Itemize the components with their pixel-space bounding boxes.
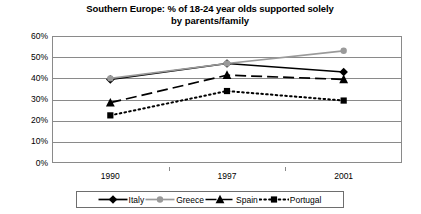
legend-item-label: Spain [236,195,259,205]
y-axis-tick-label: 20% [4,116,48,125]
square-icon [259,194,289,205]
y-axis-tick-label: 10% [4,137,48,146]
chart-title-line-1: Southern Europe: % of 18-24 year olds su… [55,3,365,15]
legend-item-spain[interactable]: Spain [205,194,259,205]
x-axis: 199019972001 [52,167,402,181]
legend-item-label: Italy [129,195,146,205]
chart-title-line-2: by parents/family [55,15,365,27]
legend-item-greece[interactable]: Greece [145,194,205,205]
plot-area [52,36,402,163]
legend-item-label: Portugal [290,195,323,205]
legend-item-portugal[interactable]: Portugal [259,194,323,205]
legend-item-italy[interactable]: Italy [98,194,146,205]
circle-icon [145,194,175,205]
data-point-marker [224,88,230,94]
circle-icon [145,194,175,205]
y-axis-tick-label: 60% [4,32,48,41]
data-point-marker [224,60,230,66]
x-axis-tick-label: 1990 [80,171,140,181]
chart-container: Southern Europe: % of 18-24 year olds su… [0,0,421,214]
data-point-marker [107,112,113,118]
x-axis-tick-mark [169,167,170,171]
y-axis-tick-label: 40% [4,74,48,83]
data-point-marker [341,97,347,103]
square-icon [259,194,289,205]
triangle-icon [205,194,235,205]
y-axis-tick-label: 50% [4,53,48,62]
chart-title: Southern Europe: % of 18-24 year olds su… [55,3,365,27]
x-axis-tick-mark [285,167,286,171]
series-portugal [107,88,347,119]
chart-legend: ItalyGreeceSpainPortugal [76,191,344,208]
legend-item-label: Greece [176,195,205,205]
data-point-marker [340,48,346,54]
x-axis-tick-label: 1997 [197,171,257,181]
diamond-icon [98,194,128,205]
legend-items: ItalyGreeceSpainPortugal [77,192,343,207]
x-axis-tick-label: 2001 [314,171,374,181]
y-axis-tick-label: 30% [4,95,48,104]
y-axis-tick-label: 0% [4,159,48,168]
triangle-icon [205,194,235,205]
series-layer [52,36,402,163]
y-axis: 0%10%20%30%40%50%60% [0,36,48,163]
diamond-icon [98,194,128,205]
data-point-marker [107,75,113,81]
